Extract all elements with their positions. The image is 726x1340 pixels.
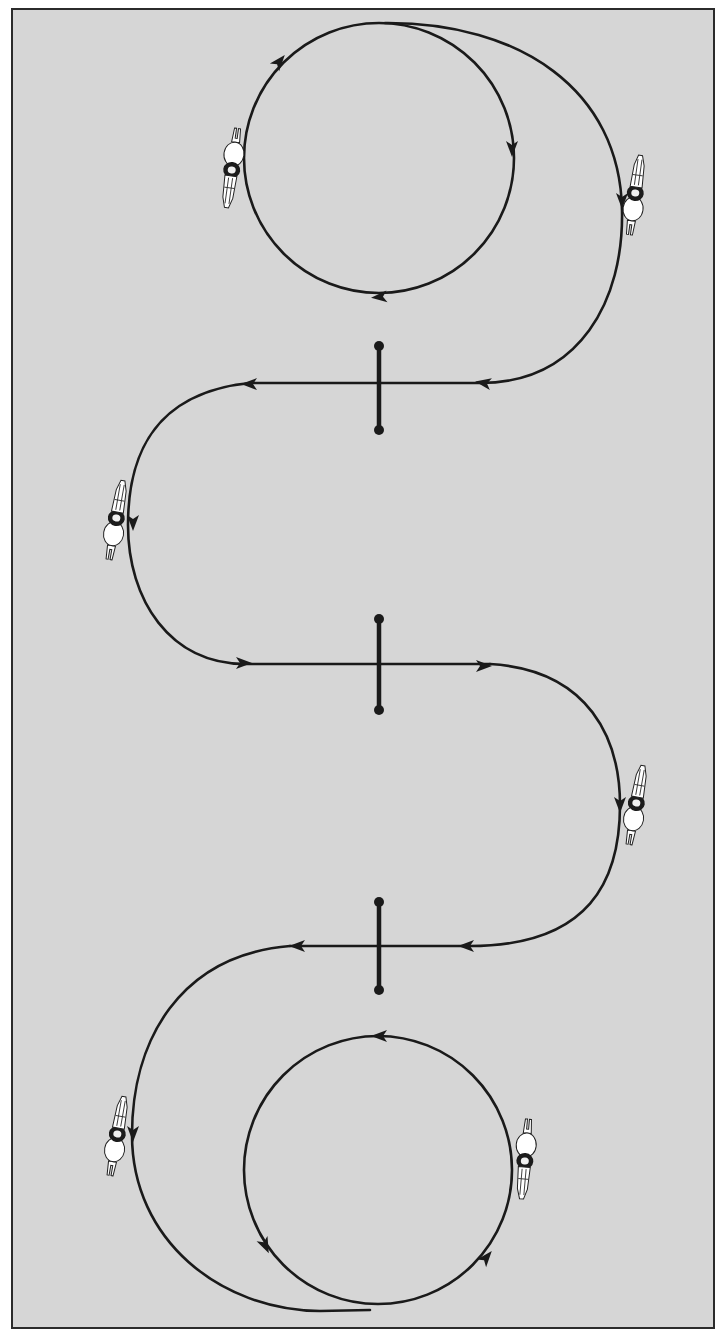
gate-1 [374,341,384,435]
riding-pattern-diagram [0,0,726,1340]
rider-icon [619,764,653,846]
top-exit-path [250,23,622,383]
bottom-circle-path [244,1036,512,1304]
rider-icon [217,127,248,209]
rider-icon [620,154,651,236]
left-curve-1-path [128,383,490,664]
arrow-icon [476,660,492,672]
top-circle-path [244,23,514,293]
rider-icon [100,1095,134,1177]
rider-icon [512,1118,539,1199]
right-curve-path [290,664,620,946]
